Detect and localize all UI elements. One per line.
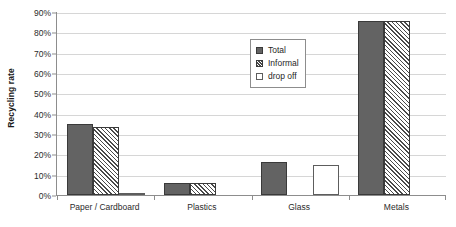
bar-informal <box>190 183 216 195</box>
bar-informal <box>384 21 410 195</box>
y-axis-tick-label: 40% <box>34 110 51 120</box>
y-axis-title: Recycling rate <box>0 0 22 196</box>
y-axis-tick-label: 30% <box>34 130 51 140</box>
x-axis-category-label: Glass <box>288 202 310 212</box>
legend-item: Total <box>256 44 299 57</box>
bar-total <box>358 21 384 195</box>
legend-label: Informal <box>268 59 299 68</box>
y-axis-tick-label: 80% <box>34 28 51 38</box>
bar-total <box>67 124 93 195</box>
legend-item: Informal <box>256 57 299 70</box>
y-axis-tick-label: 20% <box>34 150 51 160</box>
x-axis-category-label: Plastics <box>187 202 216 212</box>
x-axis-tick-mark <box>252 196 253 200</box>
y-axis-title-label: Recycling rate <box>6 68 16 128</box>
y-axis-tick-label: 70% <box>34 49 51 59</box>
y-axis-tick-label: 0% <box>39 191 51 201</box>
y-axis-tick-label: 10% <box>34 171 51 181</box>
legend-swatch-icon <box>256 60 263 67</box>
bar-group <box>57 12 154 195</box>
legend-swatch-icon <box>256 47 263 54</box>
y-axis-tick-label: 90% <box>34 8 51 18</box>
recycling-rate-bar-chart: Recycling rate 0%10%20%30%40%50%60%70%80… <box>0 0 456 227</box>
x-axis-tick-mark <box>349 196 350 200</box>
x-axis-category-label: Paper / Cardboard <box>70 202 140 212</box>
bar-group <box>154 12 251 195</box>
x-axis-category-label: Metals <box>384 202 409 212</box>
x-axis-category-labels: Paper / CardboardPlasticsGlassMetals <box>56 202 446 218</box>
bar-group <box>349 12 446 195</box>
x-axis-tick-mark <box>445 196 446 200</box>
y-axis-tick-label: 60% <box>34 69 51 79</box>
bar-informal <box>93 127 119 195</box>
x-axis-tick-mark <box>154 196 155 200</box>
x-axis-tick-marks <box>56 196 446 201</box>
legend-item: drop off <box>256 70 299 83</box>
x-axis-tick-mark <box>57 196 58 200</box>
chart-legend: TotalInformaldrop off <box>250 39 306 88</box>
y-axis-tick-labels: 0%10%20%30%40%50%60%70%80%90% <box>22 12 56 196</box>
legend-swatch-icon <box>256 73 263 80</box>
bar-drop-off <box>313 165 339 196</box>
bar-total <box>164 183 190 195</box>
bar-drop-off <box>119 193 145 195</box>
legend-label: drop off <box>268 72 297 81</box>
bar-total <box>261 162 287 195</box>
legend-label: Total <box>268 46 286 55</box>
y-axis-tick-label: 50% <box>34 89 51 99</box>
